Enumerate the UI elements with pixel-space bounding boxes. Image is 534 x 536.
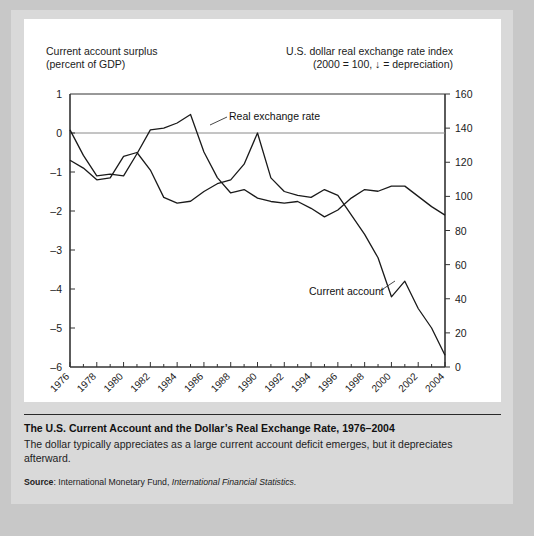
plot-area: 10–1–2–3–4–5–602040608010012014016019761…	[24, 19, 501, 402]
caption-block: The U.S. Current Account and the Dollar’…	[24, 414, 501, 488]
left-tick-label: 0	[56, 127, 62, 139]
x-tick-label: 1990	[235, 370, 259, 394]
x-tick-label: 1998	[343, 370, 367, 394]
series-line-current-account	[70, 133, 445, 355]
x-tick-label: 2004	[423, 370, 447, 394]
right-tick-label: 20	[455, 327, 467, 339]
annotation-real-exchange-rate: Real exchange rate	[229, 110, 320, 122]
caption-divider	[24, 414, 501, 415]
left-tick-label: –2	[50, 205, 62, 217]
source-label: Source	[24, 477, 53, 487]
figure-container: Current account surplus (percent of GDP)…	[11, 10, 513, 504]
x-tick-label: 1984	[155, 370, 179, 394]
left-tick-label: –6	[50, 361, 62, 373]
right-tick-label: 100	[455, 190, 473, 202]
x-tick-label: 1994	[289, 370, 313, 394]
x-tick-label: 1980	[101, 370, 125, 394]
x-tick-label: 1978	[75, 370, 99, 394]
right-tick-label: 60	[455, 259, 467, 271]
x-tick-label: 1996	[316, 370, 340, 394]
x-tick-label: 1976	[48, 370, 72, 394]
annotation-current-account: Current account	[309, 285, 384, 297]
x-tick-label: 2002	[396, 370, 420, 394]
chart-panel: Current account surplus (percent of GDP)…	[24, 19, 501, 402]
x-tick-label: 2000	[369, 370, 393, 394]
left-tick-label: –1	[50, 166, 62, 178]
source-publication: International Financial Statistics.	[172, 477, 297, 487]
left-tick-label: –4	[50, 283, 62, 295]
right-tick-label: 140	[455, 122, 473, 134]
right-tick-label: 40	[455, 293, 467, 305]
caption-title: The U.S. Current Account and the Dollar’…	[24, 422, 501, 435]
left-tick-label: 1	[56, 88, 62, 100]
annotation-leader-real-exchange-rate	[210, 117, 227, 125]
right-tick-label: 0	[455, 361, 461, 373]
left-tick-label: –3	[50, 244, 62, 256]
line-chart-svg: 10–1–2–3–4–5–602040608010012014016019761…	[24, 19, 501, 402]
right-tick-label: 120	[455, 156, 473, 168]
caption-source: Source: International Monetary Fund, Int…	[24, 476, 501, 488]
x-tick-label: 1986	[182, 370, 206, 394]
x-tick-label: 1988	[209, 370, 233, 394]
right-tick-label: 160	[455, 88, 473, 100]
x-tick-label: 1982	[128, 370, 152, 394]
series-line-real-exchange-rate	[70, 114, 445, 216]
source-org: International Monetary Fund,	[58, 477, 172, 487]
right-tick-label: 80	[455, 225, 467, 237]
left-tick-label: –5	[50, 322, 62, 334]
caption-body: The dollar typically appreciates as a la…	[24, 438, 501, 465]
x-tick-label: 1992	[262, 370, 286, 394]
